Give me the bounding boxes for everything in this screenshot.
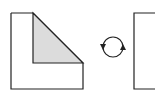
left-shape (11, 13, 83, 89)
arrow-left-icon (100, 44, 106, 50)
shaded-triangle (33, 13, 83, 63)
diagram-canvas (0, 0, 155, 95)
right-shape (134, 13, 155, 89)
arrow-right-icon (120, 44, 126, 50)
right-shape-outline (134, 13, 155, 89)
rotate-icon (100, 37, 126, 57)
